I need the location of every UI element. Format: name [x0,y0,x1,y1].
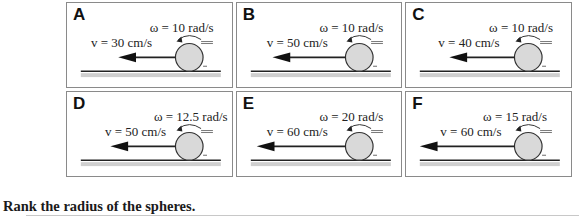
linear-velocity-label: v = 60 cm/s [440,124,501,140]
answer-divider [26,215,579,216]
panel-grid: A ω = 10 rad/s v = 30 cm/s B ω = 10 rad/… [66,2,572,177]
panel-label: F [412,94,422,114]
panel-label: E [243,94,254,114]
panel-label: C [412,5,424,25]
angular-velocity-label: ω = 12.5 rad/s [154,109,228,125]
angular-velocity-label: ω = 10 rad/s [489,20,553,36]
angular-velocity-label: ω = 10 rad/s [150,20,214,36]
panel-f: F ω = 15 rad/s v = 60 cm/s [405,91,572,177]
question-prompt: Rank the radius of the spheres. [3,198,195,215]
panel-e: E ω = 20 rad/s v = 60 cm/s [236,91,403,177]
panel-label: A [73,5,85,25]
panel-d: D ω = 12.5 rad/s v = 50 cm/s [66,91,233,177]
angular-velocity-label: ω = 20 rad/s [319,109,383,125]
linear-velocity-label: v = 60 cm/s [267,124,328,140]
panel-b: B ω = 10 rad/s v = 50 cm/s [236,2,403,88]
angular-velocity-label: ω = 10 rad/s [319,20,383,36]
panel-label: B [243,5,255,25]
panel-label: D [73,94,85,114]
linear-velocity-label: v = 50 cm/s [267,35,328,51]
panel-a: A ω = 10 rad/s v = 30 cm/s [66,2,233,88]
angular-velocity-label: ω = 15 rad/s [483,109,547,125]
linear-velocity-label: v = 50 cm/s [105,124,166,140]
linear-velocity-label: v = 40 cm/s [438,35,499,51]
linear-velocity-label: v = 30 cm/s [91,35,152,51]
panel-c: C ω = 10 rad/s v = 40 cm/s [405,2,572,88]
